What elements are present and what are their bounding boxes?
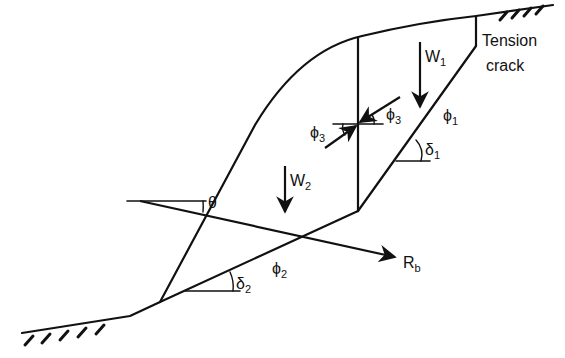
upper-failure-plane — [358, 46, 476, 211]
lower-failure-plane — [160, 211, 358, 302]
phi3-left-label: ϕ3 — [310, 124, 325, 144]
tension-crack-label-line1: Tension — [482, 32, 537, 49]
rb-label: Rb — [403, 254, 421, 274]
delta2-label: δ2 — [236, 275, 251, 295]
phi3-lower-arrow — [325, 126, 356, 148]
phi3-right-label: ϕ3 — [386, 106, 401, 126]
delta1-label: δ1 — [425, 141, 440, 161]
phi2-label: ϕ2 — [272, 260, 287, 280]
w1-label: W1 — [425, 48, 446, 68]
lower-ground-hatching — [25, 325, 104, 345]
delta1-arc — [416, 140, 422, 161]
phi1-label: ϕ1 — [443, 107, 458, 127]
delta2-arc — [230, 272, 233, 291]
w2-label: W2 — [290, 172, 311, 192]
theta-label: θ — [208, 194, 217, 211]
tension-crack-label-line2: crack — [486, 57, 525, 74]
rb-arrow — [140, 201, 395, 257]
slope-wedge-diagram: Tension crack W1 W2 ϕ1 ϕ2 ϕ3 ϕ3 δ1 δ2 θ … — [0, 0, 565, 358]
phi3-right-arc — [372, 115, 374, 124]
